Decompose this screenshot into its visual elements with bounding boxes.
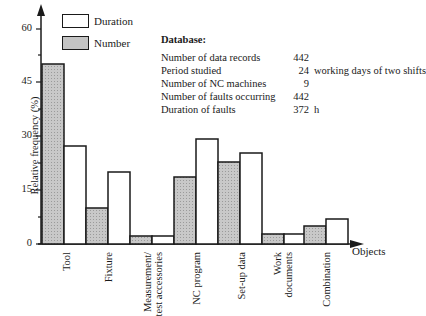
bar-nc-duration <box>196 139 218 244</box>
y-tick-60: 60 <box>12 22 32 33</box>
database-row: Number of faults occurring442 <box>161 90 426 103</box>
y-tick-0: 0 <box>12 237 32 248</box>
legend-item-number: Number <box>62 33 133 53</box>
database-row: Number of data records442 <box>161 51 426 64</box>
bar-measurement-number <box>130 236 152 244</box>
bar-work-duration <box>284 234 306 244</box>
bar-fixture-number <box>86 208 108 244</box>
y-axis-arrow-icon <box>37 4 45 16</box>
database-row: Number of NC machines9 <box>161 77 426 90</box>
bar-nc-number <box>174 177 196 244</box>
category-label-fixture: Fixture <box>103 252 114 282</box>
category-label-setup-data: Set-up data <box>236 252 247 300</box>
bar-measurement-duration <box>152 236 174 244</box>
bar-combination-number <box>304 226 326 244</box>
category-label-measurement: Measurement/test accessories <box>142 252 164 316</box>
database-title: Database: <box>161 33 426 46</box>
category-label-work-documents: Workdocuments <box>272 252 294 298</box>
bar-setup-number <box>218 162 240 244</box>
legend-swatch-duration <box>62 14 89 28</box>
category-label-nc-program: NC program <box>191 252 202 305</box>
bar-tool-number <box>42 64 64 244</box>
x-axis-label: Objects <box>352 245 386 257</box>
legend-swatch-number <box>62 36 89 50</box>
database-row: Duration of faults372h <box>161 103 426 116</box>
legend-label-duration: Duration <box>94 15 133 27</box>
legend-label-number: Number <box>94 37 130 49</box>
bar-setup-duration <box>240 153 262 244</box>
category-label-combination: Combination <box>321 252 332 307</box>
y-tick-45: 45 <box>12 75 32 86</box>
legend-item-duration: Duration <box>62 11 133 31</box>
category-label-tool: Tool <box>61 252 72 271</box>
legend: Duration Number <box>62 11 133 55</box>
bar-fixture-duration <box>108 172 130 244</box>
y-axis-label: Relative frequency (%) <box>29 86 40 206</box>
bar-tool-duration <box>64 146 86 244</box>
database-row: Period studied24working days of two shif… <box>161 64 426 77</box>
bar-combination-duration <box>326 219 348 244</box>
bar-work-number <box>262 234 284 244</box>
database-info: Database: Number of data records442 Peri… <box>161 33 426 116</box>
